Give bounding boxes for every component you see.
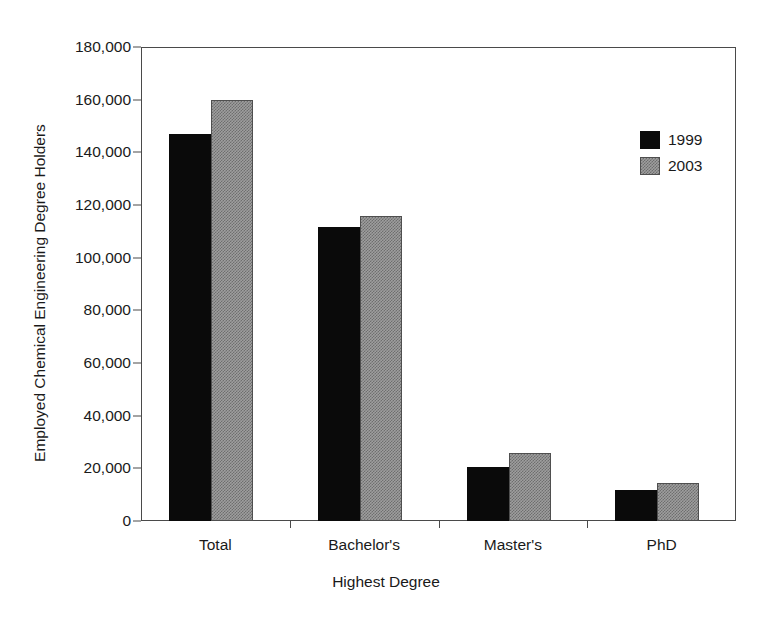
y-axis-tick-mark <box>133 415 141 416</box>
y-axis-tick-mark <box>133 257 141 258</box>
legend-swatch-1999 <box>640 131 660 149</box>
chart-figure: 020,00040,00060,00080,000100,000120,0001… <box>0 0 772 622</box>
bar-bachelor-s-1999 <box>318 227 360 521</box>
x-axis-tick-mark <box>439 521 440 528</box>
bar-total-2003 <box>211 100 253 521</box>
y-axis-tick-mark <box>133 310 141 311</box>
y-axis-tick-mark <box>133 47 141 48</box>
bar-master-s-2003 <box>509 453 551 521</box>
x-axis-category-label: Bachelor's <box>328 536 400 554</box>
legend-item-2003: 2003 <box>640 155 750 181</box>
bar-total-1999 <box>169 134 211 521</box>
bar-bachelor-s-2003 <box>360 216 402 521</box>
x-axis-category-label: PhD <box>647 536 677 554</box>
bar-master-s-1999 <box>467 467 509 521</box>
x-axis-tick-mark <box>587 521 588 528</box>
x-axis-category-label: Total <box>199 536 232 554</box>
y-axis-tick-mark <box>133 468 141 469</box>
legend-swatch-2003 <box>640 157 660 175</box>
bar-phd-2003 <box>657 483 699 521</box>
y-axis-tick-mark <box>133 205 141 206</box>
x-axis-tick-mark <box>290 521 291 528</box>
bars-layer <box>141 47 736 521</box>
y-axis-tick-mark <box>133 521 141 522</box>
y-axis-tick-mark <box>133 99 141 100</box>
legend-label-1999: 1999 <box>668 129 702 151</box>
y-axis-title: Employed Chemical Engineering Degree Hol… <box>31 53 49 533</box>
x-axis-title: Highest Degree <box>0 573 772 591</box>
legend-label-2003: 2003 <box>668 155 702 177</box>
legend-item-1999: 1999 <box>640 129 750 155</box>
y-axis-tick-mark <box>133 363 141 364</box>
chart-legend: 19992003 <box>640 129 750 181</box>
x-axis-category-label: Master's <box>484 536 542 554</box>
y-axis-tick-mark <box>133 152 141 153</box>
bar-phd-1999 <box>615 490 657 521</box>
